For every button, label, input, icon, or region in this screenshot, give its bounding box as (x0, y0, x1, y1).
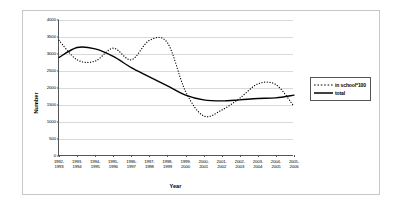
legend-label-in-school: in school*100 (335, 82, 366, 88)
legend-label-total: total (335, 90, 345, 96)
chart-legend: in school*100 total (310, 77, 371, 101)
series-line-total (59, 47, 294, 101)
x-tick-label-end: 1995 (91, 164, 100, 169)
x-tick-label-end: 1997 (127, 164, 136, 169)
x-tick-label-end: 2005 (271, 164, 280, 169)
x-tick-label-end: 2003 (235, 164, 244, 169)
x-tick-mark (294, 155, 295, 157)
y-tick-label: 4000 (47, 18, 56, 22)
x-tick-label-end: 1996 (109, 164, 118, 169)
y-tick-label: 1000 (47, 120, 56, 124)
x-tick-label-end: 2004 (253, 164, 262, 169)
x-tick-label-end: 1998 (145, 164, 154, 169)
y-tick-label: 0 (54, 154, 56, 158)
x-tick-label: 1996-1997 (126, 159, 136, 169)
chart-frame: Number Year 0500100015002000250030003500… (22, 10, 380, 195)
x-tick-label: 1998-1999 (162, 159, 172, 169)
x-tick-label: 2002-2003 (235, 159, 245, 169)
x-tick-label: 1997-1998 (144, 159, 154, 169)
y-tick-label: 3000 (47, 52, 56, 56)
x-tick-label-end: 2001 (199, 164, 208, 169)
x-tick-label: 2001-2002 (217, 159, 227, 169)
x-tick-label-end: 1994 (73, 164, 82, 169)
x-tick-label: 1994-1995 (90, 159, 100, 169)
y-tick-label: 2000 (47, 86, 56, 90)
x-tick-label: 2000-2001 (198, 159, 208, 169)
dotted-line-icon (314, 82, 333, 88)
x-tick-label: 2004-2005 (271, 159, 281, 169)
y-tick-label: 500 (49, 137, 56, 141)
x-axis-title: Year (58, 183, 293, 189)
x-tick-label-end: 2000 (181, 164, 190, 169)
solid-line-icon (314, 90, 333, 96)
x-tick-label-end: 2002 (217, 164, 226, 169)
data-series (59, 20, 294, 156)
x-tick-label-end: 2006 (290, 164, 299, 169)
y-axis-title: Number (33, 92, 39, 113)
y-tick-label: 3500 (47, 35, 56, 39)
x-tick-label: 1993-1994 (72, 159, 82, 169)
x-tick-label: 1992-1993 (54, 159, 64, 169)
x-tick-label-end: 1999 (163, 164, 172, 169)
x-tick-label: 1995-1996 (108, 159, 118, 169)
legend-item-total: total (314, 89, 366, 97)
x-tick-label: 2003-2004 (253, 159, 263, 169)
y-tick-label: 1500 (47, 103, 56, 107)
legend-item-in-school: in school*100 (314, 81, 366, 89)
x-tick-label: 1999-2000 (180, 159, 190, 169)
y-tick-label: 2500 (47, 69, 56, 73)
x-tick-label-end: 1993 (55, 164, 64, 169)
x-tick-label: 2005-2006 (289, 159, 299, 169)
plot-area: 05001000150020002500300035004000 1992-19… (58, 20, 293, 156)
